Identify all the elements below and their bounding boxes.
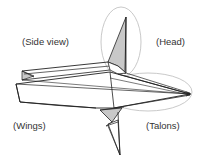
upper-body-top [22, 62, 108, 71]
upper-body-inner [24, 66, 110, 74]
label-wings: (Wings) [13, 121, 46, 131]
label-side-view: (Side view) [22, 37, 69, 47]
label-head: (Head) [156, 37, 185, 47]
origami-model-drawing [0, 0, 208, 163]
label-talons: (Talons) [146, 121, 180, 131]
